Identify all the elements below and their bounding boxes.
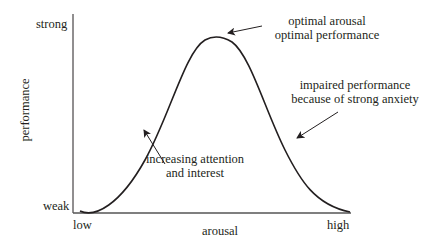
- annotation-falling: impaired performance because of strong a…: [280, 78, 428, 106]
- annotation-rising-line2: and interest: [130, 166, 260, 180]
- x-right-label: high: [327, 218, 349, 232]
- annotation-peak-line2: optimal performance: [262, 28, 392, 42]
- annotation-falling-line2: because of strong anxiety: [280, 92, 428, 106]
- annotation-rising: increasing attention and interest: [130, 152, 260, 180]
- x-axis-label: arousal: [190, 224, 250, 238]
- y-bottom-label: weak: [43, 199, 69, 213]
- x-left-label: low: [73, 218, 92, 232]
- annotation-falling-line1: impaired performance: [280, 78, 428, 92]
- y-top-label: strong: [36, 17, 67, 31]
- performance-curve: [80, 37, 350, 213]
- annotation-rising-line1: increasing attention: [130, 152, 260, 166]
- arrow-peak: [228, 26, 262, 33]
- annotation-peak: optimal arousal optimal performance: [262, 14, 392, 42]
- y-axis-label: performance: [18, 70, 32, 150]
- arrow-falling: [297, 112, 338, 138]
- annotation-peak-line1: optimal arousal: [262, 14, 392, 28]
